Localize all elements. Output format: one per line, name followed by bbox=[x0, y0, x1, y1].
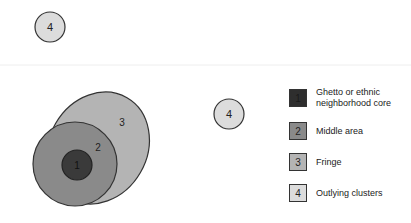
legend-label-middle-area: Middle area bbox=[316, 126, 363, 137]
legend: 1 Ghetto or ethnic neighborhood core 2 M… bbox=[289, 88, 411, 214]
outlying-cluster-label: 4 bbox=[226, 108, 232, 120]
legend-item-fringe: 3 Fringe bbox=[289, 152, 411, 172]
outlying-cluster-top-left: 4 bbox=[35, 12, 65, 42]
legend-swatch-outlying: 4 bbox=[289, 184, 307, 202]
legend-label-line: Ghetto or ethnic bbox=[316, 87, 391, 98]
outlying-cluster-right: 4 bbox=[214, 99, 244, 129]
zone-fringe-label: 3 bbox=[119, 117, 125, 128]
legend-item-middle-area: 2 Middle area bbox=[289, 121, 411, 141]
zone-core: 1 bbox=[62, 150, 92, 180]
legend-label-fringe: Fringe bbox=[316, 157, 342, 168]
legend-label-outlying: Outlying clusters bbox=[316, 188, 383, 199]
legend-label-line: neighborhood core bbox=[316, 98, 391, 109]
legend-swatch-fringe: 3 bbox=[289, 153, 307, 171]
legend-swatch-middle-area: 2 bbox=[289, 122, 307, 140]
zone-middle-area-label: 2 bbox=[95, 142, 101, 153]
legend-item-outlying: 4 Outlying clusters bbox=[289, 183, 411, 203]
legend-swatch-core: 1 bbox=[289, 89, 307, 107]
legend-label-core: Ghetto or ethnic neighborhood core bbox=[316, 87, 391, 109]
outlying-cluster-label: 4 bbox=[47, 21, 53, 33]
zone-core-label: 1 bbox=[74, 160, 80, 171]
legend-item-core: 1 Ghetto or ethnic neighborhood core bbox=[289, 88, 411, 108]
